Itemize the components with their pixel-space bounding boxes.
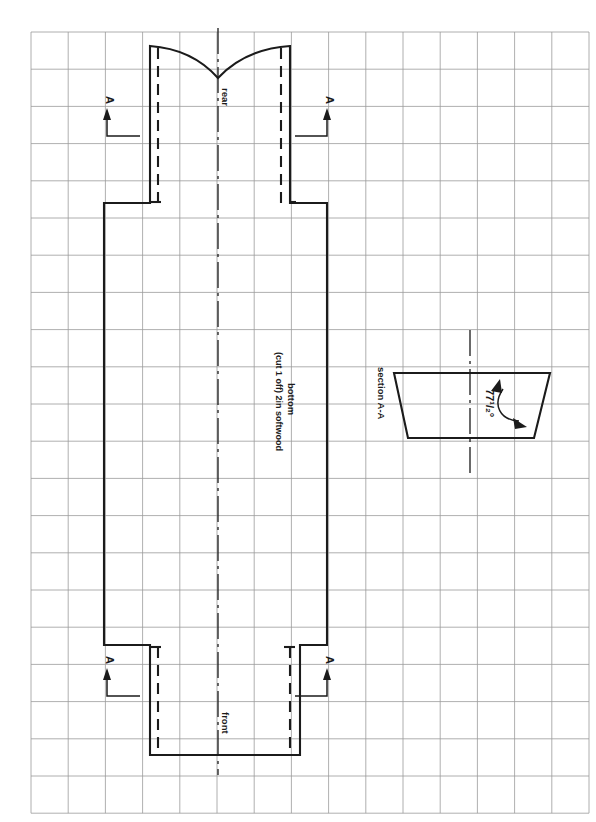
drawing-sheet: rear front bottom (cut 1 off) 2in softwo…	[0, 0, 596, 822]
label-section-mark-a-top-right: A	[324, 96, 336, 104]
label-section-title: section A-A	[376, 367, 387, 420]
angle-arrowhead-lower	[513, 418, 527, 429]
label-part-note: (cut 1 off) 2in softwood	[274, 352, 284, 451]
label-section-mark-a-bottom-left: A	[104, 656, 116, 664]
label-angle-value: 77¹/₂°	[484, 389, 496, 417]
section-aa-outline	[394, 373, 550, 438]
technical-drawing-canvas: rear front bottom (cut 1 off) 2in softwo…	[0, 0, 596, 822]
label-section-mark-a-bottom-right: A	[324, 656, 336, 664]
label-section-mark-a-top-left: A	[104, 96, 116, 104]
label-front: front	[220, 712, 231, 734]
label-part-name: bottom	[286, 383, 297, 415]
angle-arc	[498, 389, 519, 421]
label-rear: rear	[220, 88, 231, 106]
